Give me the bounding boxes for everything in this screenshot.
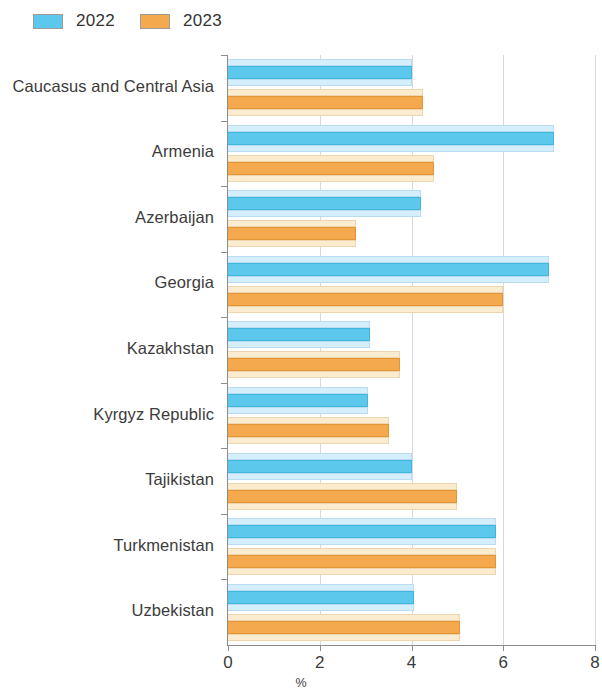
y-axis-tick — [221, 448, 228, 449]
bar-highlight-band — [228, 286, 503, 293]
category-row: Turkmenistan — [228, 514, 595, 580]
y-axis-tick — [221, 579, 228, 580]
y-axis-tick — [221, 186, 228, 187]
bar-core — [228, 96, 423, 109]
bar-2022[interactable] — [228, 584, 414, 611]
bar-shadow-band — [228, 634, 460, 641]
category-label: Tajikistan — [0, 470, 214, 489]
y-axis-tick — [221, 383, 228, 384]
bar-core — [228, 162, 434, 175]
bar-highlight-band — [228, 321, 370, 328]
category-label: Georgia — [0, 273, 214, 292]
bar-core — [228, 591, 414, 604]
bar-core — [228, 293, 503, 306]
bar-shadow-band — [228, 276, 549, 283]
legend-entry-2022: 2022 — [33, 11, 115, 31]
bar-shadow-band — [228, 604, 414, 611]
x-axis-tick-2 — [320, 645, 321, 651]
bar-core — [228, 358, 400, 371]
bar-core — [228, 197, 421, 210]
chart-legend: 2022 2023 — [0, 0, 602, 46]
legend-swatch-2022-icon — [33, 14, 63, 29]
bar-highlight-band — [228, 584, 414, 591]
bar-2023[interactable] — [228, 614, 460, 641]
bar-shadow-band — [228, 79, 412, 86]
bar-shadow-band — [228, 407, 368, 414]
bar-highlight-band — [228, 453, 412, 460]
bar-2022[interactable] — [228, 256, 549, 283]
x-axis-tick-4 — [412, 645, 413, 651]
bar-2023[interactable] — [228, 548, 496, 575]
bar-core — [228, 424, 389, 437]
category-row: Armenia — [228, 121, 595, 187]
category-label: Kazakhstan — [0, 339, 214, 358]
bar-shadow-band — [228, 109, 423, 116]
legend-label-2023: 2023 — [183, 11, 222, 31]
bar-2022[interactable] — [228, 453, 412, 480]
bar-shadow-band — [228, 240, 356, 247]
bar-core — [228, 460, 412, 473]
x-axis-tick-label: 2 — [300, 653, 340, 673]
bar-highlight-band — [228, 220, 356, 227]
bar-highlight-band — [228, 59, 412, 66]
category-row: Caucasus and Central Asia — [228, 55, 595, 121]
bar-core — [228, 555, 496, 568]
bar-highlight-band — [228, 190, 421, 197]
bar-2022[interactable] — [228, 190, 421, 217]
bar-2023[interactable] — [228, 417, 389, 444]
x-axis-tick-8 — [595, 645, 596, 651]
y-axis-tick — [221, 252, 228, 253]
bar-shadow-band — [228, 568, 496, 575]
category-row: Uzbekistan — [228, 579, 595, 645]
y-axis-tick — [221, 514, 228, 515]
bar-highlight-band — [228, 387, 368, 394]
bar-highlight-band — [228, 614, 460, 621]
bar-core — [228, 490, 457, 503]
bar-core — [228, 227, 356, 240]
bar-highlight-band — [228, 125, 554, 132]
bar-core — [228, 66, 412, 79]
category-row: Azerbaijan — [228, 186, 595, 252]
category-row: Tajikistan — [228, 448, 595, 514]
category-label: Turkmenistan — [0, 536, 214, 555]
bar-shadow-band — [228, 473, 412, 480]
bar-shadow-band — [228, 371, 400, 378]
x-axis-tick-6 — [503, 645, 504, 651]
bar-2022[interactable] — [228, 387, 368, 414]
category-label: Uzbekistan — [0, 601, 214, 620]
category-row: Georgia — [228, 252, 595, 318]
bar-shadow-band — [228, 437, 389, 444]
bar-2022[interactable] — [228, 321, 370, 348]
x-axis-tick-0 — [228, 645, 229, 651]
bar-shadow-band — [228, 145, 554, 152]
category-label: Armenia — [0, 142, 214, 161]
bar-2022[interactable] — [228, 125, 554, 152]
category-row: Kyrgyz Republic — [228, 383, 595, 449]
bar-highlight-band — [228, 518, 496, 525]
plot-area: Caucasus and Central AsiaArmeniaAzerbaij… — [228, 55, 595, 645]
bar-2023[interactable] — [228, 155, 434, 182]
bar-2023[interactable] — [228, 351, 400, 378]
category-row: Kazakhstan — [228, 317, 595, 383]
bar-2023[interactable] — [228, 220, 356, 247]
gridline-8 — [595, 55, 596, 645]
bar-2023[interactable] — [228, 286, 503, 313]
legend-entry-2023: 2023 — [140, 11, 222, 31]
bar-core — [228, 328, 370, 341]
bar-shadow-band — [228, 306, 503, 313]
bar-2022[interactable] — [228, 518, 496, 545]
y-axis-tick — [221, 121, 228, 122]
x-axis-tick-label: 8 — [575, 653, 602, 673]
bar-2023[interactable] — [228, 483, 457, 510]
x-axis-title: % — [0, 676, 602, 690]
category-label: Azerbaijan — [0, 208, 214, 227]
bar-core — [228, 621, 460, 634]
bar-2023[interactable] — [228, 89, 423, 116]
y-axis-tick — [221, 55, 228, 56]
x-axis-tick-label: 6 — [483, 653, 523, 673]
bar-2022[interactable] — [228, 59, 412, 86]
bar-shadow-band — [228, 503, 457, 510]
bar-highlight-band — [228, 351, 400, 358]
bar-highlight-band — [228, 417, 389, 424]
bar-highlight-band — [228, 256, 549, 263]
